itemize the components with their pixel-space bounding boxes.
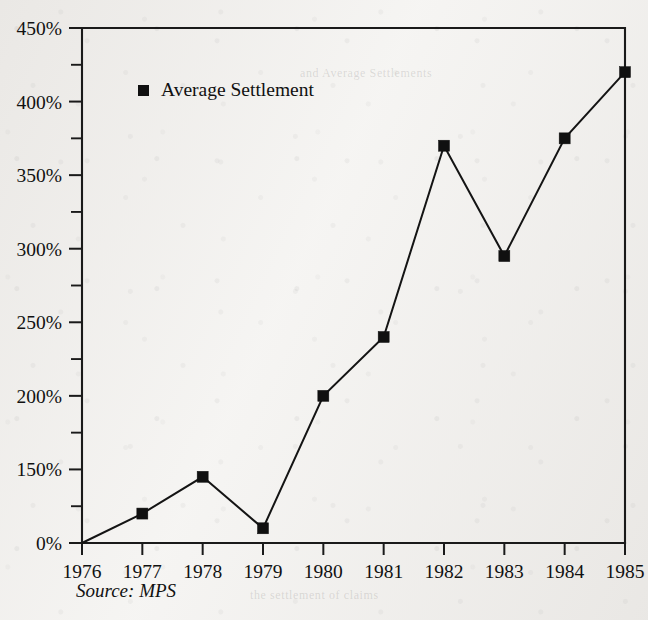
x-tick-label: 1981	[364, 561, 403, 582]
y-tick-label: 250%	[17, 312, 63, 333]
y-tick-label: 0%	[36, 533, 62, 554]
y-axis-ticks	[69, 28, 82, 543]
data-point-marker	[197, 471, 208, 482]
data-point-marker	[258, 523, 269, 534]
data-point-marker	[620, 67, 631, 78]
y-axis-tick-labels: 0%150%200%250%300%350%400%450%	[17, 18, 63, 554]
x-tick-label: 1978	[183, 561, 222, 582]
y-tick-label: 150%	[17, 459, 63, 480]
chart-page: and Average Settlements the settlement o…	[0, 0, 648, 620]
y-tick-label: 200%	[17, 386, 63, 407]
x-tick-label: 1983	[485, 561, 524, 582]
data-point-marker	[499, 251, 510, 262]
line-chart: 0%150%200%250%300%350%400%450% 197619771…	[0, 0, 648, 620]
legend-swatch-icon	[138, 85, 149, 96]
chart-legend: Average Settlement	[138, 79, 314, 100]
x-tick-label: 1980	[304, 561, 343, 582]
x-tick-label: 1982	[425, 561, 464, 582]
data-series-average-settlement	[82, 67, 631, 543]
x-tick-label: 1976	[63, 561, 102, 582]
x-tick-label: 1984	[545, 561, 584, 582]
source-note: Source: MPS	[76, 580, 177, 601]
data-point-marker	[137, 508, 148, 519]
y-tick-label: 400%	[17, 92, 63, 113]
y-tick-label: 350%	[17, 165, 63, 186]
x-tick-label: 1977	[123, 561, 162, 582]
x-axis-ticks	[82, 543, 625, 555]
x-tick-label: 1985	[606, 561, 645, 582]
y-tick-label: 300%	[17, 239, 63, 260]
x-axis-tick-labels: 1976197719781979198019811982198319841985	[63, 561, 645, 582]
data-point-marker	[378, 332, 389, 343]
data-point-marker	[318, 390, 329, 401]
chart-axes	[82, 28, 625, 543]
x-tick-label: 1979	[244, 561, 283, 582]
source-label: Source: MPS	[76, 580, 177, 601]
legend-label: Average Settlement	[161, 79, 314, 100]
data-point-marker	[439, 140, 450, 151]
data-point-marker	[559, 133, 570, 144]
y-tick-label: 450%	[17, 18, 63, 39]
